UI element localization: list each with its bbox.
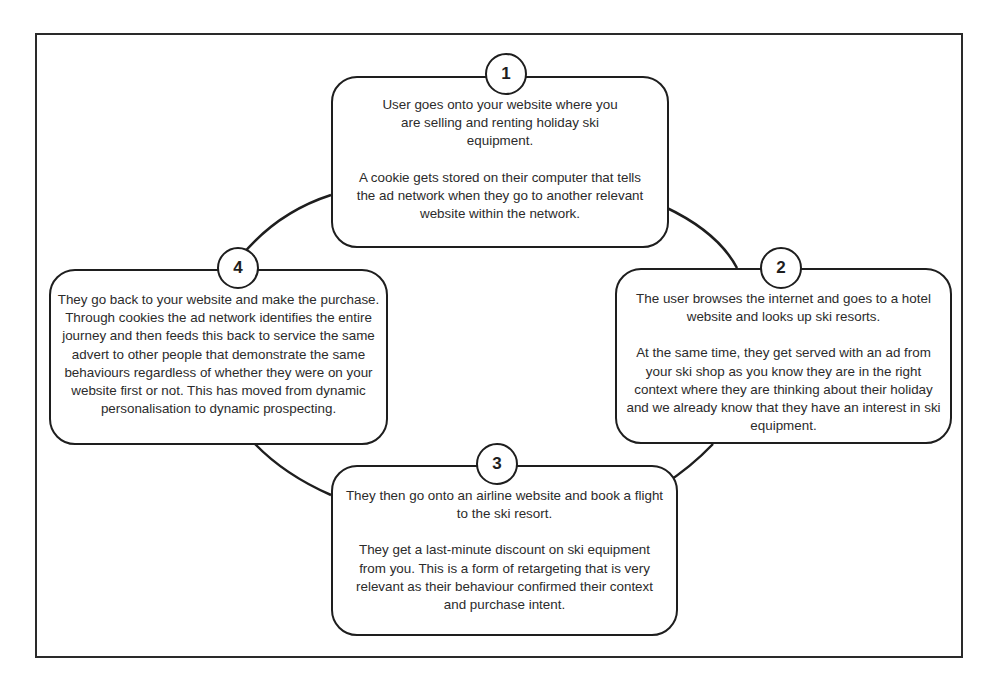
- step-3-paragraph-1: They then go onto an airline website and…: [345, 487, 664, 523]
- step-1-number-badge: 1: [485, 53, 527, 95]
- step-4-box: They go back to your website and make th…: [49, 269, 388, 445]
- step-1-box: User goes onto your website where you ar…: [331, 76, 669, 248]
- step-2-number-badge: 2: [760, 247, 802, 289]
- step-1-paragraph-2: A cookie gets stored on their computer t…: [351, 169, 649, 224]
- connector-3-to-4: [255, 444, 331, 495]
- connector-4-to-1: [238, 195, 331, 260]
- step-4-number-badge: 4: [217, 247, 259, 289]
- step-3-box: They then go onto an airline website and…: [331, 465, 678, 636]
- step-2-box: The user browses the internet and goes t…: [615, 268, 952, 444]
- connector-1-to-2: [665, 207, 737, 268]
- step-3-paragraph-2: They get a last-minute discount on ski e…: [345, 541, 664, 614]
- step-2-paragraph-2: At the same time, they get served with a…: [625, 344, 942, 435]
- step-3-number-badge: 3: [476, 443, 518, 485]
- step-2-paragraph-1: The user browses the internet and goes t…: [625, 290, 942, 326]
- step-4-paragraph-1: They go back to your website and make th…: [57, 291, 380, 418]
- step-1-paragraph-1: User goes onto your website where you ar…: [351, 96, 649, 151]
